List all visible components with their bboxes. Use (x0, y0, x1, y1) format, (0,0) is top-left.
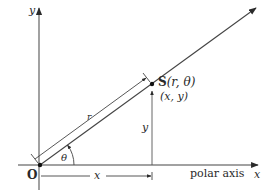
radius-label: r (87, 112, 92, 122)
origin-point (38, 163, 42, 167)
origin-label: O (27, 168, 37, 182)
r-dimension-tick-start (31, 154, 38, 163)
x-dimension-label: x (94, 169, 101, 182)
point-name: S (158, 75, 167, 89)
polar-axis-label: polar axis (190, 167, 245, 180)
y-dimension-label: y (141, 121, 149, 134)
angle-arc (68, 145, 75, 165)
ray-line (40, 8, 256, 165)
y-axis-label: y (28, 4, 36, 17)
r-dimension-tick-end (143, 73, 150, 82)
polar-coordinate-diagram: y O x y θ r polar axis x S(r, θ) (x, y) (0, 0, 274, 196)
angle-label: θ (61, 152, 67, 163)
x-axis-label: x (254, 168, 261, 181)
point-cartesian-coords: (x, y) (160, 90, 188, 103)
point-label: S(r, θ) (158, 75, 196, 89)
point-polar-coords: (r, θ) (167, 75, 196, 89)
point-s (150, 82, 154, 86)
